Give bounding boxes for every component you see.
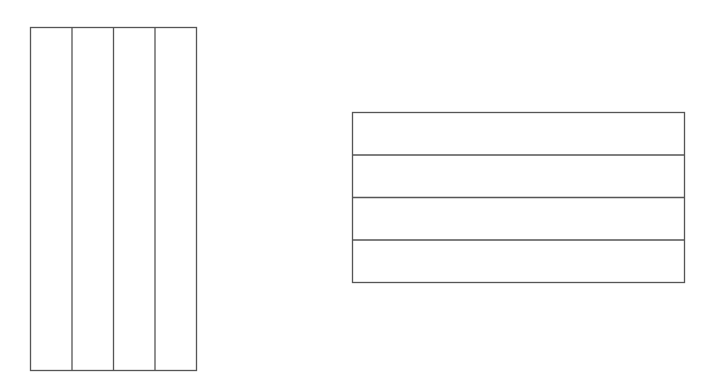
partition-diagram [0, 0, 714, 380]
vertical-partition [31, 28, 197, 371]
shapes-layer [31, 28, 685, 371]
horizontal-partition [353, 113, 685, 283]
diagram-canvas [0, 0, 714, 380]
